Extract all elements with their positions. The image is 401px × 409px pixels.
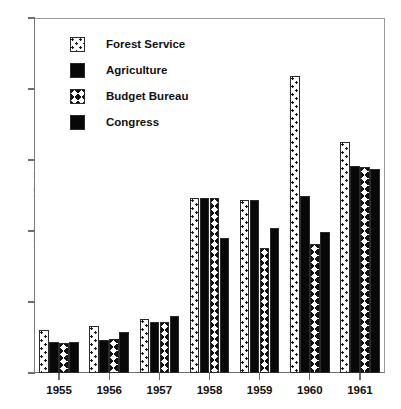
bar-1959-budget-bureau [260,248,270,373]
x-tick-mark [309,373,310,380]
bar-1961-budget-bureau [360,167,370,373]
bar-1961-forest-service [340,142,350,373]
legend-item-label: Budget Bureau [106,90,188,102]
x-tick-label: 1960 [286,384,334,396]
x-tick-label: 1956 [85,384,133,396]
bar-1955-forest-service [39,330,49,373]
legend-item-forest-service: Forest Service [70,31,188,57]
bar-chart: Millions of Dollars 0510152025 195519561… [0,0,401,409]
x-tick-label: 1961 [336,384,384,396]
solid-square-icon [70,115,85,130]
x-tick-mark [209,373,210,380]
x-tick-label: 1958 [186,384,234,396]
bar-1961-congress [370,169,380,373]
bar-1958-forest-service [190,198,200,373]
x-tick-mark [259,373,260,380]
bar-1957-congress [170,316,180,373]
bar-1960-budget-bureau [310,244,320,373]
bar-1955-congress [69,342,79,373]
dotted-square-icon [70,37,85,52]
bar-1957-budget-bureau [160,322,170,373]
bar-1960-congress [320,232,330,373]
chart-legend: Forest ServiceAgricultureBudget BureauCo… [70,31,188,135]
chevron-square-icon [70,89,85,104]
solid-square-icon [70,63,85,78]
bar-1959-congress [270,228,280,373]
bar-1955-agriculture [49,342,59,373]
bar-1961-agriculture [350,166,360,373]
legend-item-label: Agriculture [106,64,167,76]
x-tick-mark [159,373,160,380]
bar-1956-forest-service [89,326,99,373]
x-tick-mark [109,373,110,380]
x-tick-label: 1959 [236,384,284,396]
legend-item-congress: Congress [70,109,188,135]
bar-1959-forest-service [240,200,250,373]
bar-1960-agriculture [300,196,310,374]
bar-1959-agriculture [250,200,260,373]
x-tick-label: 1955 [35,384,83,396]
bar-1958-agriculture [200,198,210,373]
x-tick-label: 1957 [135,384,183,396]
x-tick-mark [58,373,59,380]
bar-1955-budget-bureau [59,343,69,373]
x-tick-mark [359,373,360,380]
bar-1956-congress [119,332,129,373]
legend-item-agriculture: Agriculture [70,57,188,83]
legend-item-label: Congress [106,116,159,128]
bar-1957-agriculture [150,322,160,373]
bar-1957-forest-service [140,319,150,373]
bar-1960-forest-service [290,76,300,373]
legend-item-label: Forest Service [106,38,185,50]
bar-1956-agriculture [99,340,109,373]
bar-1956-budget-bureau [109,339,119,373]
bar-1958-budget-bureau [210,198,220,373]
legend-item-budget-bureau: Budget Bureau [70,83,188,109]
bar-1958-congress [220,238,230,373]
